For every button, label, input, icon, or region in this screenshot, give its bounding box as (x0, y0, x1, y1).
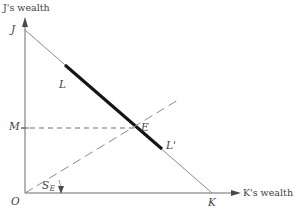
wealth-frontier-diagram: J's wealth K's wealth J M O K E L L' SE (0, 0, 299, 224)
point-label-J: J (11, 24, 15, 35)
point-label-O: O (11, 196, 20, 207)
x-axis-title: K's wealth (243, 188, 293, 198)
y-axis-arrow-icon (22, 17, 28, 27)
y-axis-title: J's wealth (3, 3, 50, 13)
slope-label-subscript: E (49, 184, 54, 193)
point-label-K: K (208, 197, 216, 208)
segment-label-L-prime: L' (166, 140, 176, 151)
segment-label-L: L (59, 79, 66, 90)
point-label-M: M (9, 121, 20, 132)
bargaining-range-segment (65, 65, 162, 149)
x-axis-arrow-icon (231, 190, 241, 196)
point-label-E: E (141, 122, 149, 133)
slope-label-S-E: SE (42, 180, 55, 191)
